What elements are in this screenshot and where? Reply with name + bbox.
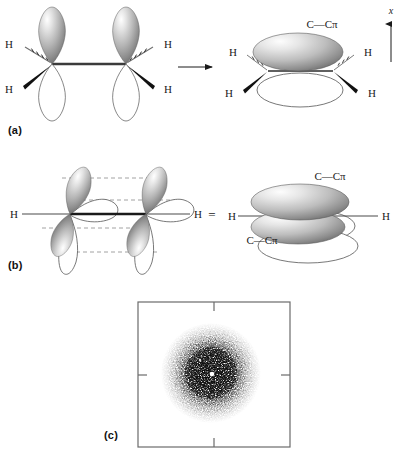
hydrogen-label: H [10,208,18,220]
panel-label-a: (a) [8,124,22,136]
pi-lobe-lower-outline [257,73,343,107]
panel-b-right-structure: H H C—Cπ C—Cπ [228,170,390,263]
panel-a-right-structure: H H H H C—Cπ [225,18,376,107]
panel-b: H H = H H C—Cπ C—Cπ [10,164,390,274]
hydrogen-label: H [194,208,202,220]
hydrogen-label: H [228,210,236,222]
hydrogen-label: H [364,46,372,58]
nucleus-highlight [210,372,215,377]
panel-c [138,302,290,447]
pi-lobe-upper-shaded [253,33,343,71]
panel-a: H H H H [5,5,394,121]
pi-bond-label: C—Cπ [306,18,338,30]
density-speck [199,359,201,361]
hydrogen-label: H [164,83,172,95]
pi-bond-figure: H H H H [0,0,404,457]
pi-lobe-shaded-upper [251,184,349,220]
hydrogen-label: H [5,83,13,95]
p-orbital-lobe-upper-right [113,7,140,64]
hydrogen-label: H [368,87,376,99]
x-axis-indicator: x [388,5,394,62]
x-axis-label: x [388,5,394,16]
pi-bond-label-bottom: C—Cπ [246,234,278,246]
hydrogen-label: H [5,38,13,50]
panel-label-b: (b) [8,259,23,271]
hydrogen-label: H [229,46,237,58]
equals-sign: = [208,207,215,222]
hydrogen-label: H [382,210,390,222]
hydrogen-label: H [164,38,172,50]
p-orbital-lobe-upper-left [39,7,66,64]
hydrogen-label: H [225,87,233,99]
electron-density-cloud [161,323,261,423]
pi-bond-label-top: C—Cπ [314,170,346,182]
panel-a-left-structure: H H H H [5,7,172,121]
panel-b-left-structure: H H [10,164,202,274]
panel-label-c: (c) [104,429,118,441]
